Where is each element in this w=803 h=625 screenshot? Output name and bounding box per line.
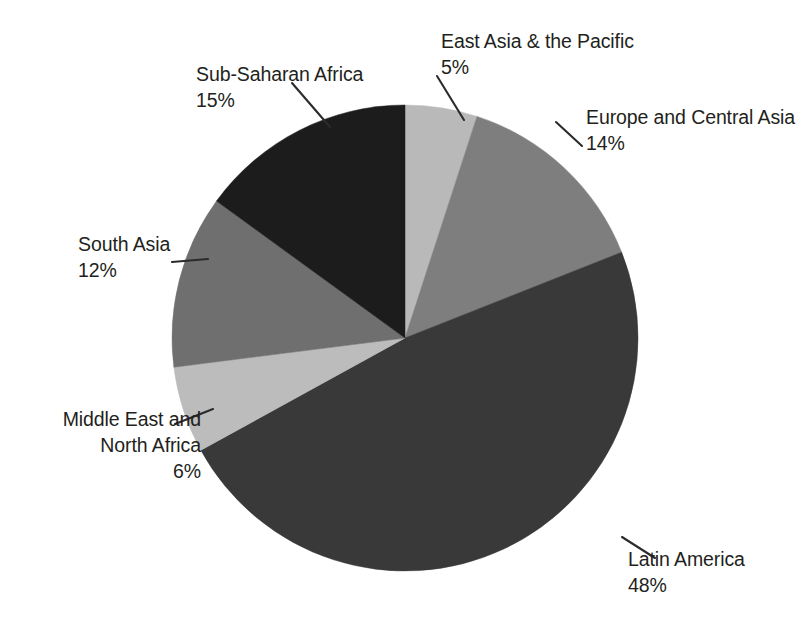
pie-label-east-asia-name: East Asia & the Pacific bbox=[441, 30, 634, 52]
pie-label-south-asia-name: South Asia bbox=[78, 233, 170, 255]
pie-label-europe: Europe and Central Asia 14% bbox=[586, 104, 795, 156]
pie-label-latin-america-name: Latin America bbox=[628, 548, 745, 570]
pie-label-latin-america: Latin America 48% bbox=[628, 546, 745, 598]
pie-label-south-asia-percent: 12% bbox=[78, 257, 170, 283]
pie-chart: East Asia & the Pacific 5% Europe and Ce… bbox=[0, 0, 803, 625]
pie-label-europe-percent: 14% bbox=[586, 130, 795, 156]
pie-label-south-asia: South Asia 12% bbox=[78, 231, 170, 283]
pie-label-middle-east-north-africa-percent: 6% bbox=[34, 458, 201, 484]
leader-line-europe bbox=[556, 122, 582, 146]
pie-label-middle-east-north-africa-line1: Middle East and bbox=[63, 408, 201, 430]
pie-label-east-asia-percent: 5% bbox=[441, 54, 634, 80]
pie-label-sub-saharan-africa: Sub-Saharan Africa 15% bbox=[196, 61, 363, 113]
pie-label-latin-america-percent: 48% bbox=[628, 572, 745, 598]
pie-label-middle-east-north-africa-line2: North Africa bbox=[34, 432, 201, 458]
pie-label-east-asia: East Asia & the Pacific 5% bbox=[441, 28, 634, 80]
pie-label-middle-east-north-africa: Middle East and North Africa 6% bbox=[34, 406, 201, 484]
pie-slice-group bbox=[172, 105, 638, 571]
pie-label-sub-saharan-africa-name: Sub-Saharan Africa bbox=[196, 63, 363, 85]
pie-label-europe-name: Europe and Central Asia bbox=[586, 106, 795, 128]
pie-chart-canvas bbox=[0, 0, 803, 625]
pie-label-sub-saharan-africa-percent: 15% bbox=[196, 87, 363, 113]
